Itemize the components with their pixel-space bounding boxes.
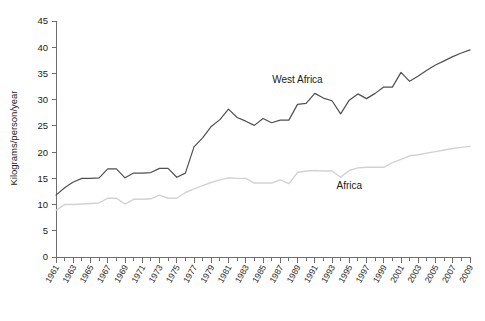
x-tick-label: 1985 [250,263,268,285]
x-tick-label: 1995 [336,263,354,285]
x-tick-label: 1999 [371,263,389,285]
x-tick-label: 1971 [129,263,147,285]
x-tick-label: 1963 [60,263,78,285]
x-tick-label: 2003 [405,263,423,285]
x-tick-label: 1979 [198,263,216,285]
x-tick-label: 1997 [354,263,372,285]
x-tick-label: 1991 [302,263,320,285]
line-chart: 051015202530354045 196119631965196719691… [0,0,485,321]
x-tick-label: 1987 [267,263,285,285]
x-tick-label: 1965 [78,263,96,285]
x-tick-label: 1969 [112,263,130,285]
y-tick-label: 35 [37,68,48,79]
x-tick-label: 1983 [233,263,251,285]
x-tick-label: 1975 [164,263,182,285]
x-tick-label: 1977 [181,263,199,285]
x-tick-label: 2009 [457,263,475,285]
series-line-africa [56,146,470,210]
x-tick-label: 1973 [147,263,165,285]
series-label-west-africa: West Africa [272,74,323,85]
y-tick-label: 10 [37,199,48,210]
y-tick-label: 25 [37,120,48,131]
chart-container: 051015202530354045 196119631965196719691… [0,0,485,321]
y-tick-label: 15 [37,173,48,184]
y-tick-label: 30 [37,94,48,105]
y-tick-label: 20 [37,147,48,158]
series-layer [56,50,470,210]
y-tick-label: 0 [43,251,48,262]
x-tick-label: 1961 [43,263,61,285]
y-tick-label: 5 [43,225,48,236]
x-tick-label: 1989 [285,263,303,285]
series-label-africa: Africa [336,180,362,191]
x-tick-label: 1993 [319,263,337,285]
series-annotations: West AfricaAfrica [272,74,362,191]
y-axis: 051015202530354045 [37,15,56,262]
x-tick-label: 2007 [440,263,458,285]
series-line-west-africa [56,50,470,195]
y-tick-label: 45 [37,15,48,26]
x-tick-label: 2001 [388,263,406,285]
x-tick-label: 1967 [95,263,113,285]
x-tick-label: 1981 [216,263,234,285]
y-tick-label: 40 [37,42,48,53]
x-tick-label: 2005 [423,263,441,285]
x-axis: 1961196319651967196919711973197519771979… [43,257,475,285]
y-axis-title: Kilograms/person/year [8,90,19,185]
